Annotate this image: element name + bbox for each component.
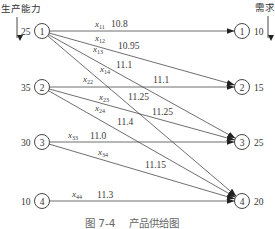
edge-3-4-variable: x34 [97, 147, 108, 158]
source-4-supply: 10 [21, 197, 31, 207]
edge-2-3-variable: x23 [98, 92, 109, 103]
edge-2-4 [42, 87, 242, 201]
sink-2-demand: 15 [254, 83, 264, 93]
edge-4-4-cost: 11.3 [97, 190, 114, 200]
edge-1-1-cost: 10.8 [111, 19, 128, 29]
edge-1-4 [42, 31, 242, 201]
source-nodes: 25 1 35 2 30 3 10 4 [21, 24, 50, 209]
figure-caption-title: 产品供给图 [129, 217, 179, 229]
source-node-4-label: 4 [40, 197, 45, 207]
edge-1-3-variable: x13 [92, 44, 103, 55]
edge-1-4-cost: 11.25 [128, 92, 149, 102]
source-2-supply: 35 [21, 83, 31, 93]
sink-3-demand: 25 [254, 138, 264, 148]
edge-1-2-cost: 10.95 [118, 41, 140, 51]
edge-1-1-variable: x11 [94, 19, 105, 30]
sink-node-1-label: 1 [240, 27, 245, 37]
source-node-1-label: 1 [40, 27, 45, 37]
edge-2-2-variable: x22 [82, 74, 93, 85]
source-3-supply: 30 [21, 138, 31, 148]
edge-2-4-variable: x24 [94, 103, 105, 114]
sink-node-2-label: 2 [240, 83, 245, 93]
edges [42, 31, 242, 201]
sink-node-4-label: 4 [240, 197, 245, 207]
sink-nodes: 1 10 2 15 3 25 4 20 [235, 24, 264, 209]
source-node-3-label: 3 [40, 138, 45, 148]
sink-1-demand: 10 [254, 27, 264, 37]
edge-3-4-cost: 11.15 [145, 160, 166, 170]
edge-2-3-cost: 11.25 [152, 107, 173, 117]
edge-1-3-cost: 11.1 [116, 60, 133, 70]
edge-1-2-variable: x12 [94, 33, 105, 44]
edge-3-3-variable: x33 [67, 130, 78, 141]
sink-4-demand: 20 [254, 197, 264, 207]
edge-3-3-cost: 11.0 [90, 131, 107, 141]
source-1-supply: 25 [21, 27, 31, 37]
figure-caption-number: 图 7-4 [85, 217, 116, 229]
supply-capacity-heading: 生产能力 [1, 3, 41, 14]
edge-2-2-cost: 11.1 [153, 75, 170, 85]
edge-2-4-cost: 11.4 [117, 117, 134, 127]
edge-1-2 [42, 31, 242, 87]
transport-network-diagram: 生产能力 需求 x11 x12 x13 x14 x22 x23 x24 x33 … [0, 0, 275, 229]
edge-4-4-variable: x44 [71, 189, 82, 200]
demand-heading: 需求 [255, 2, 275, 13]
edge-variable-labels: x11 x12 x13 x14 x22 x23 x24 x33 x34 x44 [67, 19, 110, 200]
source-node-2-label: 2 [40, 83, 45, 93]
sink-node-3-label: 3 [240, 138, 245, 148]
edge-1-3 [42, 31, 242, 142]
